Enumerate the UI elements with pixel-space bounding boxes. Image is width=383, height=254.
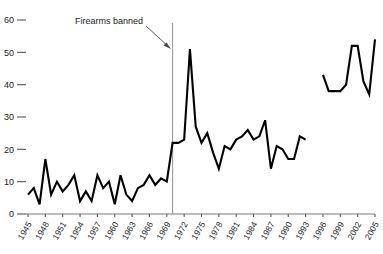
x-tick-label: 1954 bbox=[68, 220, 86, 242]
y-tick-label: 40 bbox=[4, 80, 14, 90]
annotation-label: Firearms banned bbox=[75, 16, 143, 26]
y-axis: 0102030405060 bbox=[4, 15, 26, 219]
x-tick-label: 1981 bbox=[224, 220, 242, 242]
x-tick-label: 1960 bbox=[102, 220, 120, 242]
x-tick-label: 2005 bbox=[363, 220, 381, 242]
x-tick-label: 1978 bbox=[206, 220, 224, 242]
y-tick-label: 20 bbox=[4, 145, 14, 155]
x-tick-label: 1957 bbox=[85, 220, 103, 242]
x-tick-label: 1945 bbox=[16, 220, 34, 242]
y-tick-label: 60 bbox=[4, 15, 14, 25]
x-tick-label: 1990 bbox=[276, 220, 294, 242]
y-tick-label: 0 bbox=[9, 209, 14, 219]
data-line-segment bbox=[28, 49, 306, 204]
x-tick-label: 1948 bbox=[33, 220, 51, 242]
x-tick-label: 1969 bbox=[154, 220, 172, 242]
x-tick-label: 1966 bbox=[137, 220, 155, 242]
line-chart: 0102030405060 19451948195119541957196019… bbox=[0, 0, 383, 254]
data-series-group bbox=[28, 39, 375, 204]
annotation-group: Firearms banned bbox=[75, 16, 171, 49]
x-tick-label: 2002 bbox=[345, 220, 363, 242]
x-tick-label: 1999 bbox=[328, 220, 346, 242]
x-tick-label: 1951 bbox=[50, 220, 68, 242]
y-tick-label: 50 bbox=[4, 48, 14, 58]
data-line-segment bbox=[323, 39, 375, 94]
x-tick-label: 1987 bbox=[259, 220, 277, 242]
x-tick-label: 1996 bbox=[311, 220, 329, 242]
x-tick-label: 1963 bbox=[120, 220, 138, 242]
x-tick-label: 1972 bbox=[172, 220, 190, 242]
x-tick-label: 1984 bbox=[241, 220, 259, 242]
x-axis: 1945194819511954195719601963196619691972… bbox=[16, 214, 381, 241]
x-tick-label: 1975 bbox=[189, 220, 207, 242]
y-tick-label: 10 bbox=[4, 177, 14, 187]
y-tick-label: 30 bbox=[4, 112, 14, 122]
x-tick-label: 1993 bbox=[293, 220, 311, 242]
chart-container: 0102030405060 19451948195119541957196019… bbox=[0, 0, 383, 254]
